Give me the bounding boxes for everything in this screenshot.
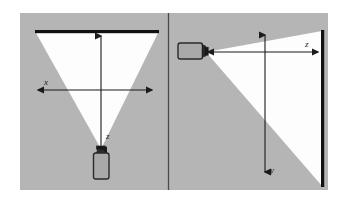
left-z-axis-label: z [105,131,110,141]
camera-lens-front-right [205,47,208,55]
projection-screen-left [35,30,159,33]
camera-body-right [178,43,203,59]
figure-root: x z z y [0,0,347,204]
right-y-axis-label: y [269,165,274,175]
camera-body-left [94,153,110,179]
left-x-axis-label: x [43,77,48,87]
camera-projection-diagram: x z z y [0,0,347,204]
camera-lens-front-left [97,146,106,149]
right-z-axis-label: z [304,39,309,49]
camera-device-right [178,43,208,59]
projection-screen-right [321,30,324,187]
